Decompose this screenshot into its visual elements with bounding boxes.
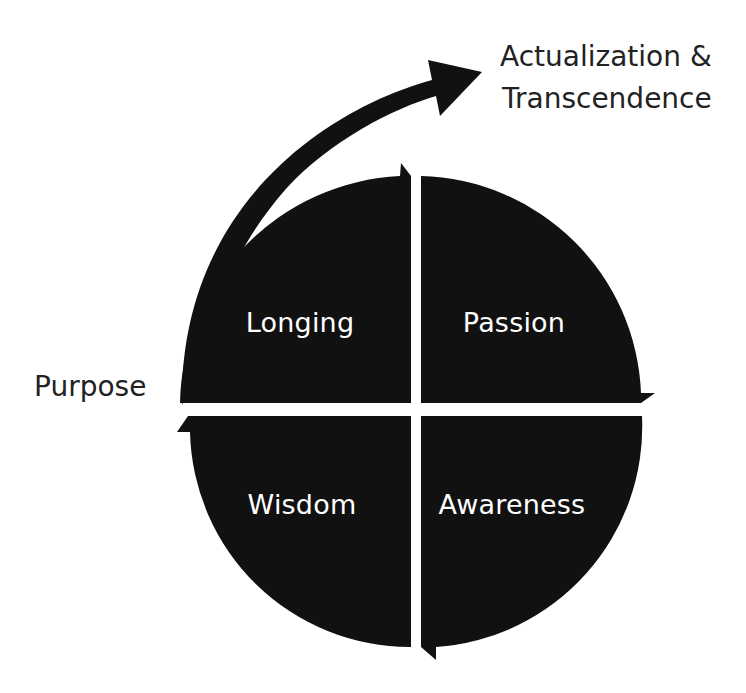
quadrant-wisdom-shape [177, 416, 411, 647]
quadrant-label-awareness: Awareness [439, 489, 586, 520]
quadrant-label-passion: Passion [463, 307, 565, 338]
transcendence-label-line2: Transcendence [502, 80, 712, 118]
quadrant-label-wisdom: Wisdom [248, 489, 357, 520]
quadrant-awareness-shape [421, 416, 642, 660]
quadrant-passion-shape [421, 176, 655, 403]
quadrant-label-longing: Longing [246, 307, 355, 338]
actualization-label-line1: Actualization & [500, 38, 712, 76]
purpose-label: Purpose [34, 368, 146, 406]
